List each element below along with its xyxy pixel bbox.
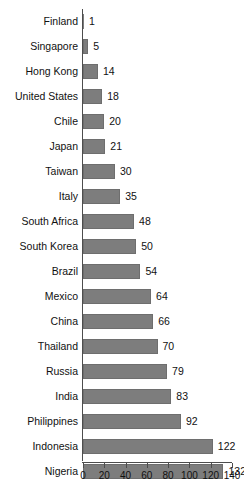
bar-row: Philippines92 (0, 409, 244, 434)
bar (83, 414, 181, 429)
bar-row: Taiwan30 (0, 159, 244, 184)
bar-row: Japan21 (0, 134, 244, 159)
category-label: Singapore (0, 34, 78, 59)
bar-row: Russia79 (0, 359, 244, 384)
x-tick-mark (104, 463, 105, 468)
category-label: Philippines (0, 409, 78, 434)
bar (83, 139, 105, 154)
bar-row: Thailand70 (0, 334, 244, 359)
bar-row: China66 (0, 309, 244, 334)
bar (83, 314, 153, 329)
bar-row: Brazil54 (0, 259, 244, 284)
bar-value-label: 48 (139, 209, 151, 234)
bar-value-label: 122 (218, 434, 236, 459)
bar (83, 289, 151, 304)
bar-value-label: 66 (158, 309, 170, 334)
x-tick-mark (168, 463, 169, 468)
bar-row: Singapore5 (0, 34, 244, 59)
bar (83, 214, 134, 229)
bar (83, 439, 213, 454)
bar-row: Finland1 (0, 9, 244, 34)
category-label: China (0, 309, 78, 334)
bar-value-label: 30 (120, 159, 132, 184)
bar (83, 64, 98, 79)
bar-chart: Finland1Singapore5Hong Kong14United Stat… (0, 0, 244, 499)
bar-row: Indonesia122 (0, 434, 244, 459)
bar-value-label: 14 (103, 59, 115, 84)
bar-value-label: 20 (109, 109, 121, 134)
category-label: Hong Kong (0, 59, 78, 84)
category-label: South Africa (0, 209, 78, 234)
bar (83, 264, 140, 279)
bar (83, 164, 115, 179)
bar (83, 364, 167, 379)
category-label: Finland (0, 9, 78, 34)
category-label: Russia (0, 359, 78, 384)
bar-row: South Africa48 (0, 209, 244, 234)
x-tick-mark (211, 463, 212, 468)
bar (83, 389, 171, 404)
category-label: Italy (0, 184, 78, 209)
plot-area: Finland1Singapore5Hong Kong14United Stat… (0, 0, 244, 463)
bar-row: South Korea50 (0, 234, 244, 259)
x-axis: 020406080100120140 (0, 462, 244, 499)
bar-row: United States18 (0, 84, 244, 109)
bar-row: Hong Kong14 (0, 59, 244, 84)
x-tick-mark (126, 463, 127, 468)
x-tick-label: 140 (217, 470, 244, 481)
category-label: India (0, 384, 78, 409)
bar-value-label: 50 (141, 234, 153, 259)
bar (83, 239, 136, 254)
bar-value-label: 70 (163, 334, 175, 359)
bar (83, 189, 120, 204)
x-tick-mark (83, 463, 84, 468)
bar (83, 89, 102, 104)
category-label: South Korea (0, 234, 78, 259)
bar-row: Chile20 (0, 109, 244, 134)
x-tick-mark (232, 463, 233, 468)
bar (83, 14, 84, 29)
bar-value-label: 83 (176, 384, 188, 409)
category-label: Indonesia (0, 434, 78, 459)
bar-value-label: 5 (93, 34, 99, 59)
bar-value-label: 64 (156, 284, 168, 309)
bar-value-label: 35 (125, 184, 137, 209)
bar (83, 339, 158, 354)
bar-value-label: 92 (186, 409, 198, 434)
category-label: Mexico (0, 284, 78, 309)
category-label: Thailand (0, 334, 78, 359)
bar-row: India83 (0, 384, 244, 409)
category-label: United States (0, 84, 78, 109)
bar-row: Mexico64 (0, 284, 244, 309)
category-label: Japan (0, 134, 78, 159)
bar-value-label: 54 (145, 259, 157, 284)
bar-row: Italy35 (0, 184, 244, 209)
x-tick-mark (189, 463, 190, 468)
bar-value-label: 21 (110, 134, 122, 159)
category-label: Chile (0, 109, 78, 134)
bar (83, 39, 88, 54)
bar-value-label: 79 (172, 359, 184, 384)
category-label: Brazil (0, 259, 78, 284)
bar (83, 114, 104, 129)
bar-value-label: 1 (89, 9, 95, 34)
category-label: Taiwan (0, 159, 78, 184)
bar-value-label: 18 (107, 84, 119, 109)
x-tick-mark (147, 463, 148, 468)
